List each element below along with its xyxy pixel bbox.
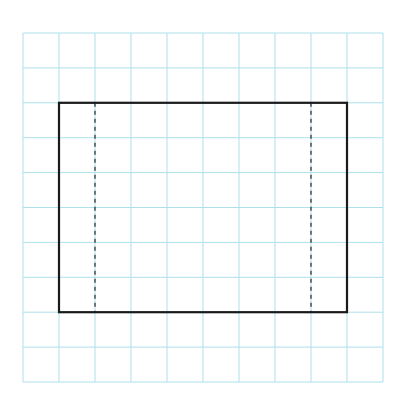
grid-lines xyxy=(23,33,383,382)
grid-diagram xyxy=(0,0,398,400)
